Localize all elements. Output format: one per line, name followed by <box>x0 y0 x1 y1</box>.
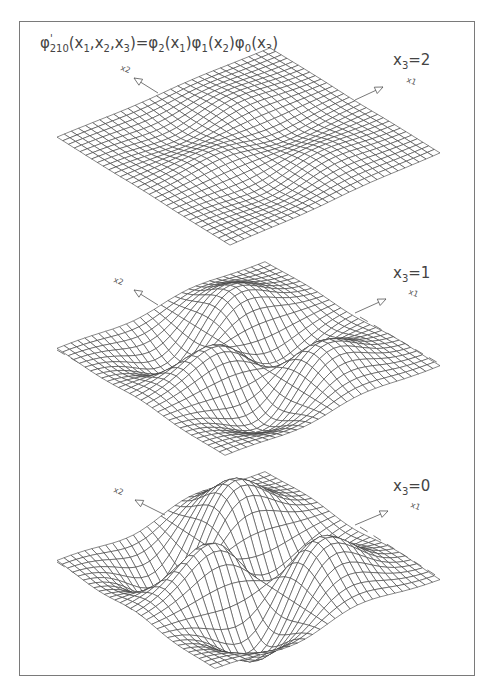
slice-label: x3=1 <box>393 264 430 284</box>
x1-axis-arrow-icon: x1 <box>355 287 420 313</box>
x2-axis-arrow-icon: x2 <box>112 275 158 305</box>
axis-label: x1 <box>405 75 417 87</box>
arrow-head-icon <box>374 87 383 94</box>
x2-axis-arrow-icon: x2 <box>119 63 158 93</box>
surface-panel-x3-1: x3=1 x2 x1 <box>57 262 440 456</box>
arrow-head-icon <box>377 299 386 305</box>
surface-mesh <box>57 262 440 456</box>
arrow-head-icon <box>379 511 388 517</box>
surface-panel-x3-0: x3=0 x2 x1 <box>57 472 440 669</box>
axis-label: x1 <box>407 287 419 299</box>
surface-panel-x3-2: x3=2 x2 x1 <box>57 48 440 245</box>
arrow-head-icon <box>135 500 144 507</box>
arrow-head-icon <box>134 290 143 297</box>
x2-axis-arrow-icon: x2 <box>112 485 165 515</box>
figure-title: φ'210(x1,x2,x3)=φ2(x1)φ1(x2)φ0(x3) <box>40 33 278 54</box>
wavefunction-figure: φ'210(x1,x2,x3)=φ2(x1)φ1(x2)φ0(x3) x3=2 … <box>0 0 494 692</box>
x1-axis-arrow-icon: x1 <box>355 500 422 525</box>
slice-label: x3=0 <box>393 477 430 497</box>
axis-label: x1 <box>409 500 421 512</box>
x1-axis-arrow-icon: x1 <box>355 75 418 100</box>
surface-mesh <box>57 48 440 245</box>
slice-label: x3=2 <box>393 51 430 71</box>
axis-label: x2 <box>112 275 124 287</box>
axis-label: x2 <box>112 485 124 497</box>
axis-label: x2 <box>119 63 131 75</box>
arrow-head-icon <box>134 78 143 85</box>
surface-mesh <box>57 472 440 669</box>
